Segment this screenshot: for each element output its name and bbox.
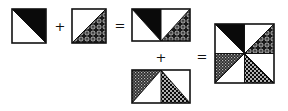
unit-black: [12, 9, 46, 43]
rect-bottom: [132, 70, 190, 103]
plus-operator: +: [156, 51, 167, 64]
pinwheel-block: [215, 24, 274, 83]
equals-operator: =: [115, 19, 126, 32]
quilt-diagram: [0, 0, 288, 111]
equals-operator: =: [197, 50, 208, 63]
rect-top: [132, 9, 190, 41]
unit-paisley: [72, 9, 106, 43]
plus-operator: +: [55, 20, 66, 33]
